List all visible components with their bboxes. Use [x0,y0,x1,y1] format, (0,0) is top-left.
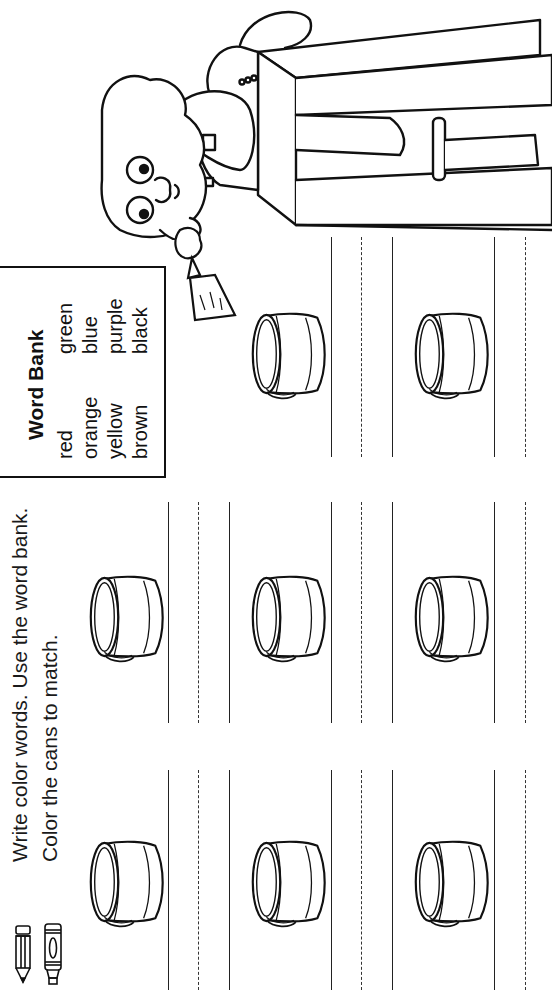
paint-can[interactable] [248,310,328,400]
paintbrush-icon [170,220,250,330]
answer-slot[interactable] [494,770,552,990]
answer-slot[interactable] [168,502,229,723]
instruction-line-1: Write color words. Use the word bank. [8,508,32,862]
word-bank-word: green [55,303,75,354]
word-bank-word: red [55,430,75,459]
answer-slot[interactable] [331,502,392,723]
writing-line-base [229,770,230,990]
writing-line-base [392,237,393,457]
paint-can[interactable] [248,573,328,663]
word-bank-word: brown [130,405,150,459]
paint-can[interactable] [411,838,491,928]
paint-can[interactable] [86,838,166,928]
answer-slot[interactable] [494,502,552,723]
bear-painter-illustration [100,0,552,240]
word-bank-word: yellow [105,403,125,459]
word-bank-word: purple [105,298,125,354]
crayon-icon [40,922,66,986]
paint-can[interactable] [411,310,491,400]
pencil-icon [10,924,36,984]
paint-can[interactable] [411,573,491,663]
writing-line-base [392,770,393,990]
answer-slot[interactable] [331,770,392,990]
writing-line-base [392,502,393,723]
answer-slot[interactable] [331,237,392,457]
word-bank-word: orange [80,397,100,459]
instruction-line-2: Color the cans to match. [38,634,62,862]
writing-line-base [229,502,230,723]
paint-can[interactable] [86,573,166,663]
paint-can[interactable] [248,838,328,928]
word-bank-word: blue [80,316,100,354]
word-bank-word: black [130,307,150,354]
word-bank-title: Word Bank [24,330,48,440]
answer-slot[interactable] [168,770,229,990]
answer-slot[interactable] [494,237,552,457]
